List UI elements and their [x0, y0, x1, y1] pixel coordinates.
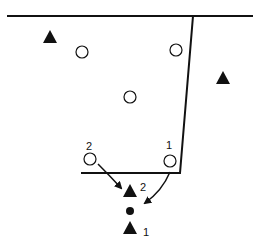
offense-circle-c-low-right: [164, 155, 176, 167]
triangle-marker-t-1: [123, 221, 137, 234]
offense-circle-c-top-right: [170, 44, 182, 56]
arrow-2-arrow: [98, 164, 121, 188]
lbl-circle-2: 2: [86, 140, 92, 152]
offense-circle-c-low-left: [84, 153, 96, 165]
lbl-circle-1: 1: [166, 139, 172, 151]
lbl-tri-1: 1: [143, 226, 149, 238]
lbl-tri-2: 2: [140, 181, 146, 193]
arrow-1-arrow: [145, 172, 170, 203]
offense-circle-c-top-left: [76, 46, 88, 58]
play-diagram: 2121: [0, 0, 261, 251]
triangle-marker-t-left: [43, 30, 57, 43]
offense-circle-c-center: [124, 91, 136, 103]
arrows-group: [98, 164, 170, 203]
triangles-group: [43, 30, 230, 234]
triangle-marker-t-right: [216, 71, 230, 84]
triangle-marker-t-2: [123, 184, 137, 197]
ball-dot: [126, 207, 134, 215]
